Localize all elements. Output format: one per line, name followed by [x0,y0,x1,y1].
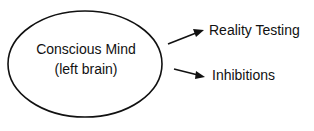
output-inhibitions: Inhibitions [212,67,275,83]
output-reality-testing: Reality Testing [209,22,300,38]
arrow-to-inhibitions [174,69,205,79]
arrow-to-reality-testing [168,29,204,44]
node-label-line2: (left brain) [8,59,164,79]
node-label-line1: Conscious Mind [8,39,164,59]
